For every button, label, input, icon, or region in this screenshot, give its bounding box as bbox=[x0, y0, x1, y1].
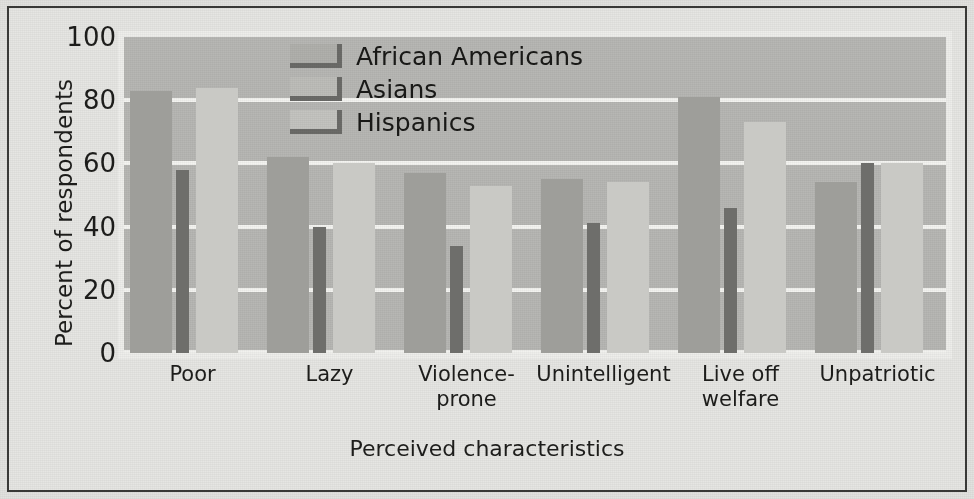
legend-entry-asians[interactable]: Asians bbox=[290, 75, 620, 104]
bar-african-americans-unintelligent[interactable] bbox=[541, 179, 583, 353]
bar-asians-unpatriotic[interactable] bbox=[861, 163, 874, 353]
bar-african-americans-lazy[interactable] bbox=[267, 157, 309, 353]
bar-asians-lazy[interactable] bbox=[313, 227, 326, 353]
y-tick-label-20: 20 bbox=[46, 277, 116, 303]
x-axis-title: Perceived characteristics bbox=[0, 436, 974, 461]
bar-african-americans-poor[interactable] bbox=[130, 91, 172, 353]
chart-legend: African AmericansAsiansHispanics bbox=[290, 42, 620, 141]
y-tick-label-40: 40 bbox=[46, 214, 116, 240]
legend-entry-african-americans[interactable]: African Americans bbox=[290, 42, 620, 71]
legend-swatch-african-americans-icon bbox=[290, 44, 342, 68]
bar-african-americans-live-off-welfare[interactable] bbox=[678, 97, 720, 353]
bar-group-unpatriotic bbox=[809, 37, 946, 353]
bar-hispanics-poor[interactable] bbox=[196, 88, 238, 353]
legend-entry-hispanics[interactable]: Hispanics bbox=[290, 108, 620, 137]
bar-hispanics-unpatriotic[interactable] bbox=[881, 163, 923, 353]
y-tick-label-100: 100 bbox=[46, 24, 116, 50]
bar-asians-violence--prone[interactable] bbox=[450, 246, 463, 353]
bar-hispanics-lazy[interactable] bbox=[333, 163, 375, 353]
bar-asians-unintelligent[interactable] bbox=[587, 223, 600, 353]
legend-label: Hispanics bbox=[356, 108, 476, 137]
bar-asians-poor[interactable] bbox=[176, 170, 189, 353]
bar-african-americans-violence--prone[interactable] bbox=[404, 173, 446, 353]
y-axis-tick-labels: 100806040200 bbox=[38, 0, 116, 499]
bar-asians-live-off-welfare[interactable] bbox=[724, 208, 737, 353]
y-tick-label-80: 80 bbox=[46, 87, 116, 113]
bar-hispanics-violence--prone[interactable] bbox=[470, 186, 512, 353]
legend-label: African Americans bbox=[356, 42, 583, 71]
y-tick-label-60: 60 bbox=[46, 150, 116, 176]
bar-hispanics-live-off-welfare[interactable] bbox=[744, 122, 786, 353]
bar-african-americans-unpatriotic[interactable] bbox=[815, 182, 857, 353]
legend-swatch-asians-icon bbox=[290, 77, 342, 101]
legend-swatch-hispanics-icon bbox=[290, 110, 342, 134]
bar-group-live-off-welfare bbox=[672, 37, 809, 353]
figure-container: Percent of respondents 100806040200 Afri… bbox=[0, 0, 974, 499]
x-tick-label-unpatriotic: Unpatriotic bbox=[789, 362, 966, 387]
x-axis-tick-labels: PoorLazyViolence- proneUnintelligentLive… bbox=[124, 362, 946, 432]
bar-hispanics-unintelligent[interactable] bbox=[607, 182, 649, 353]
legend-label: Asians bbox=[356, 75, 437, 104]
bar-group-poor bbox=[124, 37, 261, 353]
